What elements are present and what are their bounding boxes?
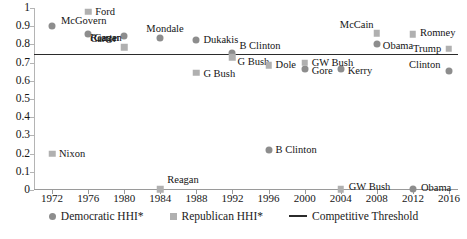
legend-square-icon [170,213,177,220]
scatter-chart: 00.10.20.30.40.50.60.70.80.91 McGovernCa… [0,0,467,239]
legend-label: Republican HHI* [182,210,263,222]
legend-label: Democratic HHI* [61,210,144,222]
x-axis-tick-label: 1972 [41,193,63,204]
data-point-label: Trump [413,44,441,55]
data-point-democratic [49,23,56,30]
x-axis-tick-label: 2000 [294,193,316,204]
data-point-label: Dole [276,60,296,71]
x-axis-tick-label: 1996 [258,193,280,204]
data-point-label: Romney [420,28,456,39]
y-axis-tick [30,99,34,100]
data-point-label: Reagan [90,33,122,44]
data-point-label: Dukakis [203,35,238,46]
legend-item[interactable]: Democratic HHI* [49,210,144,222]
y-axis-tick [30,190,34,191]
legend-line-icon [289,215,307,217]
x-axis-tick-label: 1988 [185,193,207,204]
x-axis-labels: 1972197619801984198819921996200020042008… [34,0,458,20]
data-point-label: Obama [383,41,413,52]
y-axis-tick-label: 0.8 [16,38,30,50]
y-axis-tick-label: 0.9 [16,20,30,32]
data-point-label: Clinton [409,60,441,71]
x-axis-tick-label: 1984 [149,193,171,204]
y-axis-tick-label: 0.2 [16,148,30,160]
chart-legend: Democratic HHI*Republican HHI*Competitiv… [0,210,467,222]
data-point-republican [229,54,236,61]
y-axis-tick-label: 0.1 [16,166,30,178]
data-point-label: Mondale [146,24,183,35]
y-axis-tick [30,26,34,27]
y-axis-tick-label: 0.6 [16,75,30,87]
y-axis-tick [30,135,34,136]
x-axis-tick-label: 1980 [113,193,135,204]
y-axis-tick [30,44,34,45]
data-point-democratic [373,41,380,48]
y-axis-labels: 00.10.20.30.40.50.60.70.80.91 [0,8,30,190]
x-axis-tick-label: 2004 [330,193,352,204]
data-point-democratic [301,65,308,72]
y-axis-tick [30,172,34,173]
data-point-label: Reagan [167,175,199,186]
data-point-label: Nixon [59,149,85,160]
data-point-label: McCain [340,20,374,31]
x-axis-tick-label: 1976 [77,193,99,204]
x-axis-tick-label: 2016 [438,193,460,204]
data-point-democratic [445,67,452,74]
y-axis-tick-label: 0.3 [16,129,30,141]
data-point-republican [193,69,200,76]
data-point-label: B Clinton [276,145,317,156]
legend-item[interactable]: Republican HHI* [170,210,263,222]
data-point-republican [446,46,453,53]
data-point-label: GW Bush [349,182,391,193]
legend-label: Competitive Threshold [312,210,418,222]
legend-item[interactable]: Competitive Threshold [289,210,418,222]
x-axis-line [34,189,458,190]
data-point-democratic [157,35,164,42]
plot-area: McGovernCarterCarterMondaleDukakisB Clin… [34,8,458,190]
y-axis-tick-label: 0.5 [16,93,30,105]
data-point-label: B Clinton [239,41,280,52]
y-axis-tick-label: 0.7 [16,57,30,69]
data-point-democratic [193,36,200,43]
x-axis-tick-label: 1992 [221,193,243,204]
x-axis-tick-label: 2008 [366,193,388,204]
legend-circle-icon [49,213,56,220]
data-point-republican [301,59,308,66]
y-axis-tick [30,117,34,118]
x-axis-tick-label: 2012 [402,193,424,204]
competitive-threshold-line [34,54,458,56]
data-point-republican [265,62,272,69]
y-axis-tick [30,63,34,64]
y-axis-tick [30,81,34,82]
data-point-republican [49,150,56,157]
data-point-republican [121,44,128,51]
y-axis-tick-label: 0.4 [16,111,30,123]
data-point-republican [374,30,381,37]
data-point-label: G Bush [203,69,235,80]
data-point-republican [410,31,417,38]
data-point-label: GW Bush [312,58,354,69]
data-point-democratic [265,146,272,153]
y-axis-tick [30,154,34,155]
y-axis-line [34,8,35,190]
